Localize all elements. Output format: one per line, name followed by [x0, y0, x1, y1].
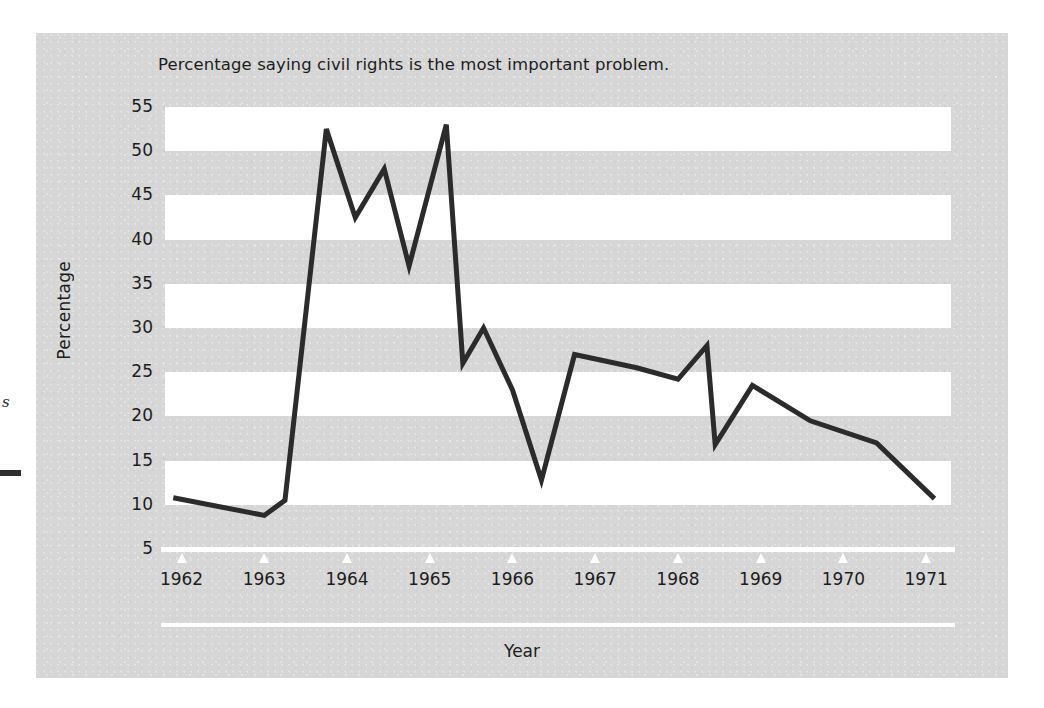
x-axis-tick-label: 1963	[224, 569, 304, 589]
x-axis-tick-label: 1967	[555, 569, 635, 589]
x-axis-tick-label: 1966	[472, 569, 552, 589]
figure-panel: Percentage saying civil rights is the mo…	[36, 33, 1008, 678]
y-axis-tick-label: 10	[109, 494, 153, 514]
x-axis-line	[161, 547, 955, 552]
y-axis-tick-label: 45	[109, 184, 153, 204]
y-axis-tick-label: 20	[109, 405, 153, 425]
x-axis-tick-label: 1964	[307, 569, 387, 589]
data-line-chart	[165, 107, 951, 549]
x-axis-tick-mark	[590, 553, 600, 563]
x-axis-tick-mark	[507, 553, 517, 563]
chart-title: Percentage saying civil rights is the mo…	[158, 55, 669, 74]
x-axis-tick-label: 1962	[142, 569, 222, 589]
x-axis-tick-label: 1970	[803, 569, 883, 589]
x-axis-tick-mark	[342, 553, 352, 563]
y-axis-tick-label: 40	[109, 229, 153, 249]
series-line-civil-rights	[173, 125, 934, 516]
panel-lower-rule	[161, 623, 955, 627]
y-axis-tick-label: 5	[109, 538, 153, 558]
x-axis-tick-mark	[425, 553, 435, 563]
y-axis-tick-label: 15	[109, 450, 153, 470]
x-axis-tick-label: 1965	[390, 569, 470, 589]
x-axis-tick-label: 1968	[638, 569, 718, 589]
x-axis-tick-label: 1969	[721, 569, 801, 589]
x-axis-tick-mark	[838, 553, 848, 563]
y-axis-tick-label: 30	[109, 317, 153, 337]
page-margin-rule-fragment	[0, 470, 21, 476]
plot-area	[165, 107, 951, 549]
x-axis-tick-mark	[921, 553, 931, 563]
y-axis-tick-label: 35	[109, 273, 153, 293]
y-axis-tick-label: 55	[109, 96, 153, 116]
x-axis-tick-mark	[259, 553, 269, 563]
y-axis-tick-label: 50	[109, 140, 153, 160]
y-axis-tick-label: 25	[109, 361, 153, 381]
page-margin-text-fragment: s	[2, 393, 10, 411]
x-axis-tick-mark	[756, 553, 766, 563]
x-axis-title: Year	[36, 641, 1008, 661]
x-axis-tick-mark	[177, 553, 187, 563]
x-axis-tick-mark	[673, 553, 683, 563]
y-axis-title: Percentage	[54, 261, 74, 360]
x-axis-tick-label: 1971	[886, 569, 966, 589]
page-edge-fragments: s	[0, 0, 36, 708]
